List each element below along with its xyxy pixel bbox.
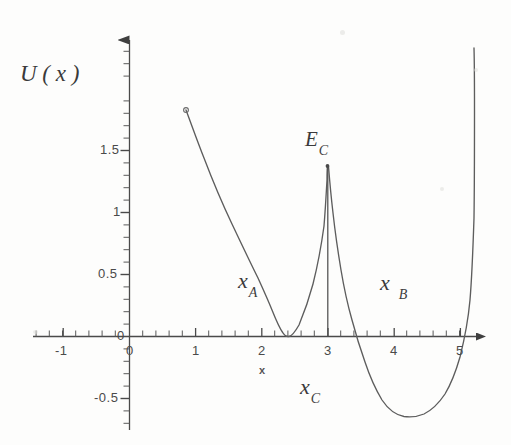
well-a-label-sub: A — [249, 285, 258, 300]
well-b-label-sub: B — [399, 287, 408, 302]
x-tick-label-4: 4 — [390, 344, 398, 357]
scan-artifact-4 — [33, 330, 38, 334]
y-axis-minor-ticks — [124, 51, 130, 423]
well-b-label-text: x — [380, 270, 390, 295]
peak-energy-label-text: E — [305, 127, 318, 151]
curve-right-well — [329, 48, 475, 417]
x-axis-label: x — [259, 365, 265, 376]
well-c-label-text: x — [300, 374, 310, 399]
y-tick-label--0.5: -0.5 — [94, 391, 118, 404]
x-tick-label--1: -1 — [55, 344, 68, 357]
figure-canvas: U ( x ) 1.5 1 0.5 0 -0.5 -1 0 1 2 3 4 5 … — [0, 0, 511, 445]
peak-energy-label: EC — [305, 129, 327, 153]
y-tick-label-0.5: 0.5 — [98, 267, 118, 280]
scan-artifact-1 — [340, 30, 345, 35]
peak-energy-label-sub: C — [319, 143, 328, 158]
x-tick-label-0: 0 — [126, 344, 134, 357]
well-c-label-sub: C — [311, 391, 320, 406]
y-tick-label-1.5: 1.5 — [100, 143, 120, 156]
scan-artifact-2 — [474, 68, 478, 72]
well-a-label-text: x — [238, 268, 248, 293]
x-tick-label-2: 2 — [258, 344, 266, 357]
y-tick-label-1: 1 — [113, 205, 121, 218]
x-tick-label-1: 1 — [192, 344, 200, 357]
x-tick-label-3: 3 — [324, 344, 332, 357]
scan-artifact-3 — [440, 187, 444, 191]
well-a-label: xA — [238, 270, 256, 295]
x-axis-minor-ticks — [36, 331, 459, 337]
axes-group — [33, 40, 477, 430]
peak-marker — [326, 164, 330, 168]
x-tick-label-5: 5 — [456, 344, 464, 357]
well-b-label: xB — [380, 272, 398, 297]
well-c-label: xC — [300, 376, 319, 401]
y-tick-label-0: 0 — [117, 329, 125, 342]
y-axis-label: U ( x ) — [20, 62, 79, 85]
